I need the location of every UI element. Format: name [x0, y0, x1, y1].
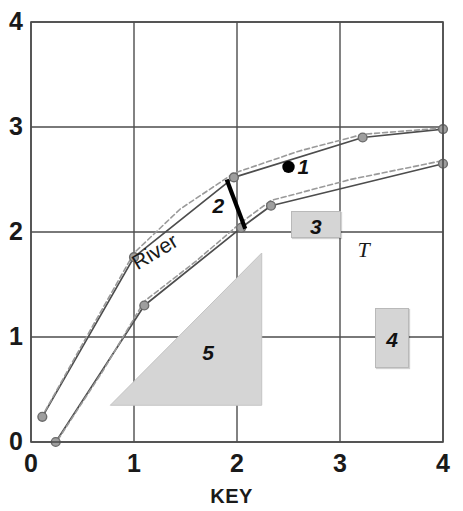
annotation-box-label-3: 3: [292, 215, 340, 239]
x-axis-tick-label: 0: [17, 451, 45, 476]
data-point-marker[interactable]: [38, 412, 47, 421]
annotation-label-5: 5: [202, 342, 214, 363]
x-axis-tick-label: 1: [120, 451, 148, 476]
y-axis-tick-label: 4: [5, 9, 27, 34]
annotation-box-3: 3: [291, 211, 341, 238]
y-axis-tick-label: 3: [5, 114, 27, 139]
y-axis-tick-label: 2: [5, 219, 27, 244]
annotation-label-T: T: [358, 239, 370, 261]
triangle-5-shape: [110, 253, 261, 405]
data-point-marker[interactable]: [267, 201, 276, 210]
chart-figure: 0123401234KEY12345TRiver: [0, 0, 463, 511]
annotation-label-1: 1: [298, 156, 310, 177]
chart-canvas: [0, 0, 463, 511]
y-axis-tick-label: 1: [5, 324, 27, 349]
annotation-box-4: 4: [375, 308, 409, 369]
annotation-box-label-4: 4: [376, 328, 408, 352]
data-point-marker[interactable]: [230, 173, 239, 182]
x-axis-tick-label: 3: [326, 451, 354, 476]
segment-2-line: [227, 180, 246, 229]
x-axis-tick-label: 2: [223, 451, 251, 476]
annotation-shapes: [110, 253, 261, 405]
annotation-label-2: 2: [212, 195, 224, 216]
x-axis-tick-label: 4: [429, 451, 457, 476]
x-axis-title: KEY: [0, 485, 463, 508]
point-1-dot: [282, 161, 294, 173]
data-point-marker[interactable]: [358, 133, 367, 142]
data-point-marker[interactable]: [140, 301, 149, 310]
